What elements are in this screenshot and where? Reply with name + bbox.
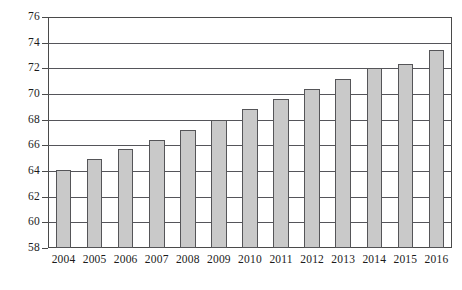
x-axis-tick-label: 2015 [390,254,421,266]
x-axis-tick-label: 2007 [141,254,172,266]
bar-chart: 76747270686664626058 2004200520062007200… [0,0,462,290]
x-axis-tick-label: 2005 [79,254,110,266]
bar [242,109,258,248]
bar [429,50,445,248]
x-axis-tick-label: 2008 [172,254,203,266]
x-axis-tick-label: 2014 [359,254,390,266]
y-axis-tick-label: 66 [2,139,40,151]
y-axis-tick-label: 58 [2,242,40,254]
bar [335,79,351,248]
y-axis-tick-mark [42,248,48,249]
bar [87,159,103,248]
y-axis-tick-label: 74 [2,37,40,49]
bar [118,149,134,248]
x-axis-tick-label: 2012 [297,254,328,266]
bars-container [48,17,452,248]
bar [398,64,414,248]
bar [149,140,165,248]
bar [56,170,72,248]
y-axis-tick-label: 72 [2,62,40,74]
bar [180,130,196,248]
y-axis-tick-label: 64 [2,165,40,177]
y-axis-tick-label: 62 [2,191,40,203]
bar [367,68,383,248]
x-axis-tick-label: 2016 [421,254,452,266]
y-axis-tick-label: 70 [2,88,40,100]
x-axis-tick-label: 2013 [328,254,359,266]
y-axis-tick-label: 60 [2,216,40,228]
bar [273,99,289,248]
x-axis-tick-label: 2009 [203,254,234,266]
x-axis-tick-label: 2004 [48,254,79,266]
x-axis-tick-label: 2006 [110,254,141,266]
bar [211,120,227,248]
x-axis-tick-label: 2010 [234,254,265,266]
y-axis-tick-label: 76 [2,11,40,23]
y-axis-tick-label: 68 [2,114,40,126]
x-axis-tick-label: 2011 [266,254,297,266]
bar [304,89,320,248]
